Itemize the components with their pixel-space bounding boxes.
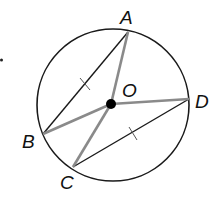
label-a: A (119, 7, 133, 28)
label-o: O (122, 80, 137, 101)
stray-dot (0, 59, 3, 62)
circle-diagram: A B C D O (0, 0, 214, 200)
label-c: C (60, 172, 74, 193)
center-point (106, 99, 116, 109)
label-b: B (22, 131, 35, 152)
chord-cd (73, 99, 189, 167)
label-d: D (195, 91, 209, 112)
